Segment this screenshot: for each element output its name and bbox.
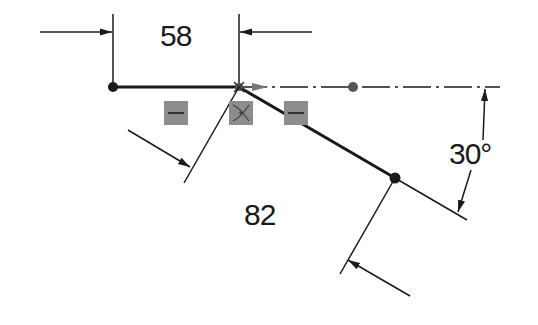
centerline-point[interactable] — [348, 82, 358, 92]
dimension-angle[interactable]: 30° — [449, 89, 491, 212]
dimension-82-label[interactable]: 82 — [244, 198, 276, 231]
endpoint-left[interactable] — [108, 82, 118, 92]
dimension-arrow-82-end — [348, 260, 410, 296]
angle-label[interactable]: 30° — [449, 137, 491, 170]
coincident-relation-icon[interactable] — [229, 101, 253, 125]
angle-arrow-bottom — [458, 170, 471, 212]
angle-arrow-top — [483, 89, 485, 140]
dimension-arrow-82-start — [128, 130, 190, 167]
inclined-sketch-line[interactable] — [239, 87, 395, 178]
dimension-58[interactable]: 58 — [40, 14, 312, 86]
angle-extension-line — [395, 178, 467, 220]
dimension-58-label[interactable]: 58 — [160, 19, 192, 52]
horizontal-relation-icon[interactable] — [284, 101, 308, 125]
sketch-canvas: 58 82 30° — [0, 0, 538, 325]
horizontal-relation-icon[interactable] — [164, 101, 188, 125]
direction-arrow-icon — [252, 83, 268, 91]
